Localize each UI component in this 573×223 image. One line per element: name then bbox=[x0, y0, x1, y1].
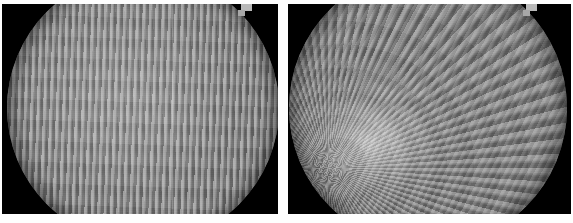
upper-right-notch-stem bbox=[523, 10, 530, 16]
left-disc bbox=[7, 4, 278, 214]
left-interference-fringes-secondary bbox=[7, 4, 278, 214]
left-frame bbox=[2, 4, 278, 214]
right-interference-fringes-secondary bbox=[289, 4, 567, 214]
right-frame bbox=[288, 4, 571, 214]
image-pair-figure bbox=[0, 0, 573, 223]
right-disc bbox=[289, 4, 567, 214]
upper-right-notch-stem bbox=[238, 10, 245, 16]
